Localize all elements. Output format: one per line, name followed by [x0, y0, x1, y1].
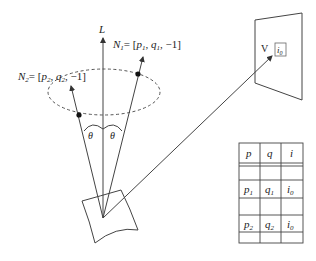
table-row-2-p: p2: [243, 218, 254, 232]
image-plane: [255, 13, 302, 100]
reflectance-table: p q i p1 q1 i0 p2 q2 i0: [239, 143, 303, 243]
table-header-p: p: [245, 147, 252, 159]
pixel-label: i0: [277, 45, 283, 56]
table-row-2-q: q2: [265, 218, 275, 232]
normal-n1-dot: [135, 71, 140, 76]
table-header-i: i: [290, 147, 293, 159]
reflectance-diagram: L N1= [p1, q1, −1] N2= [p2, q2, −1] θ θ …: [0, 0, 316, 261]
table-row-1-q: q1: [265, 183, 274, 197]
viewer-label: V: [261, 43, 269, 54]
normal-n2-label: N2= [p2, q2, −1]: [17, 70, 86, 84]
table-row-1-p: p1: [243, 183, 253, 197]
angle-arc-left: [84, 125, 103, 131]
normal-n2-dot: [76, 112, 81, 117]
angle-theta-left: θ: [88, 130, 93, 141]
table-header-q: q: [267, 147, 273, 159]
normal-n2-arrow: [71, 86, 103, 218]
table-row-1-i: i0: [287, 183, 294, 197]
table-row-2-i: i0: [287, 218, 294, 232]
light-axis-label: L: [98, 23, 105, 35]
surface-patch: [82, 190, 138, 243]
normal-n1-label: N1= [p1, q1, −1]: [112, 38, 181, 52]
angle-theta-right: θ: [110, 130, 115, 141]
